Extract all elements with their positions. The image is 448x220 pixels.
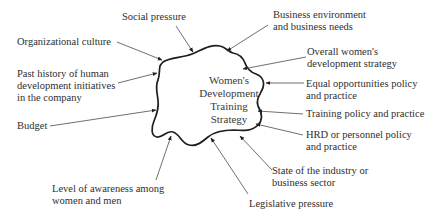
factor-organizational-culture: Organizational culture bbox=[17, 36, 111, 48]
factor-text: Past history of human bbox=[17, 68, 115, 80]
factor-training-policy: Training policy and practice bbox=[306, 108, 424, 120]
factor-text: HRD or personnel policy bbox=[306, 129, 412, 141]
factor-text: and business needs bbox=[273, 21, 366, 33]
factor-hrd-policy: HRD or personnel policy and practice bbox=[306, 129, 412, 153]
factor-awareness: Level of awareness among women and men bbox=[52, 183, 164, 207]
factor-text: development strategy bbox=[307, 58, 397, 70]
factor-text: Budget bbox=[17, 120, 47, 132]
factor-budget: Budget bbox=[17, 120, 47, 132]
factor-overall-womens-strategy: Overall women's development strategy bbox=[307, 46, 397, 70]
factor-text: development initiatives bbox=[17, 80, 115, 92]
factor-text: Social pressure bbox=[122, 11, 186, 23]
factor-text: business sector bbox=[272, 177, 368, 189]
factor-text: Level of awareness among bbox=[52, 183, 164, 195]
center-line: Women's bbox=[186, 74, 272, 87]
arrow-overall-womens-strategy bbox=[243, 57, 306, 69]
arrow-legislative-pressure bbox=[211, 138, 248, 194]
arrow-business-environment bbox=[227, 25, 268, 51]
center-line: Development bbox=[186, 87, 272, 100]
factor-equal-opportunities: Equal opportunities policy and practice bbox=[306, 78, 417, 102]
arrow-social-pressure bbox=[176, 26, 193, 52]
factor-legislative-pressure: Legislative pressure bbox=[249, 198, 333, 210]
factor-text: and practice bbox=[306, 90, 417, 102]
arrow-past-history bbox=[118, 73, 157, 83]
factor-text: Equal opportunities policy bbox=[306, 78, 417, 90]
factor-text: Overall women's bbox=[307, 46, 397, 58]
factor-business-environment: Business environment and business needs bbox=[273, 9, 366, 33]
arrow-organizational-culture bbox=[117, 42, 162, 60]
factor-social-pressure: Social pressure bbox=[122, 11, 186, 23]
center-line: Training bbox=[186, 100, 272, 113]
factor-text: in the company bbox=[17, 92, 115, 104]
factor-text: Legislative pressure bbox=[249, 198, 333, 210]
factor-industry-state: State of the industry or business sector bbox=[272, 165, 368, 189]
arrow-budget bbox=[50, 110, 156, 126]
factor-text: Business environment bbox=[273, 9, 366, 21]
factor-text: Organizational culture bbox=[17, 36, 111, 48]
factor-text: and practice bbox=[306, 141, 412, 153]
factor-past-history: Past history of human development initia… bbox=[17, 68, 115, 104]
center-line: Strategy bbox=[186, 113, 272, 126]
factor-text: women and men bbox=[52, 195, 164, 207]
arrow-awareness bbox=[156, 136, 171, 180]
factor-text: State of the industry or bbox=[272, 165, 368, 177]
factor-text: Training policy and practice bbox=[306, 108, 424, 120]
center-strategy-label: Women's Development Training Strategy bbox=[186, 74, 272, 126]
arrow-industry-state bbox=[240, 136, 272, 170]
